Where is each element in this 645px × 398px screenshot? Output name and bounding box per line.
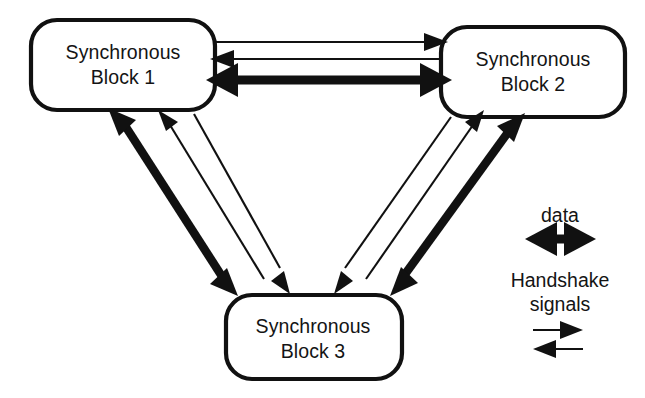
data-arrow-block1-block3[interactable] <box>108 108 238 296</box>
handshake-arrow-block1-to-block2[interactable] <box>216 33 448 51</box>
data-arrow-block1-block2[interactable] <box>206 63 452 97</box>
legend-handshake-right-arrow-icon <box>533 321 583 339</box>
block-3-shape[interactable] <box>226 295 402 379</box>
legend-handshake-label: Handshake signals <box>496 268 624 316</box>
legend-data-label: data <box>510 203 610 227</box>
handshake-arrow-block2-to-block1[interactable] <box>210 50 442 68</box>
diagram-canvas: Synchronous Block 1 Synchronous Block 2 … <box>0 0 645 398</box>
legend-data-arrow-icon <box>525 222 596 256</box>
legend-handshake-left-arrow-icon <box>533 340 583 358</box>
block-2-shape[interactable] <box>441 27 625 117</box>
diagram-graphics <box>0 0 645 398</box>
block-1-shape[interactable] <box>31 20 215 110</box>
handshake-arrow-block1-to-block3[interactable] <box>194 114 290 294</box>
handshake-arrow-block2-to-block3[interactable] <box>334 117 451 294</box>
